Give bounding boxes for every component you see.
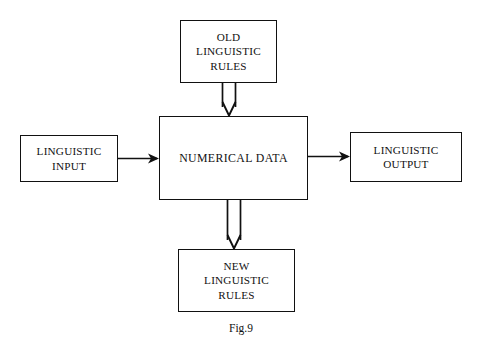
node-new-linguistic-rules: NEW LINGUISTIC RULES (178, 249, 295, 312)
node-numerical-data-label: NUMERICAL DATA (179, 151, 288, 166)
node-linguistic-output: LINGUISTIC OUTPUT (350, 132, 462, 182)
node-linguistic-output-label: LINGUISTIC OUTPUT (374, 143, 439, 172)
connector-numerical-data-to-new-rules (228, 200, 241, 249)
node-old-linguistic-rules-label: OLD LINGUISTIC RULES (196, 30, 261, 74)
node-linguistic-input-label: LINGUISTIC INPUT (37, 144, 102, 173)
node-linguistic-input: LINGUISTIC INPUT (20, 135, 118, 182)
figure-caption: Fig.9 (0, 322, 482, 334)
figure-canvas: OLD LINGUISTIC RULES NUMERICAL DATA LING… (0, 0, 482, 344)
node-numerical-data: NUMERICAL DATA (159, 116, 308, 200)
connector-numerical-data-to-linguistic-output (308, 151, 350, 161)
node-old-linguistic-rules: OLD LINGUISTIC RULES (180, 20, 277, 83)
connector-linguistic-input-to-numerical-data (118, 153, 159, 163)
connector-old-rules-to-numerical-data (223, 83, 236, 116)
node-new-linguistic-rules-label: NEW LINGUISTIC RULES (204, 259, 269, 303)
